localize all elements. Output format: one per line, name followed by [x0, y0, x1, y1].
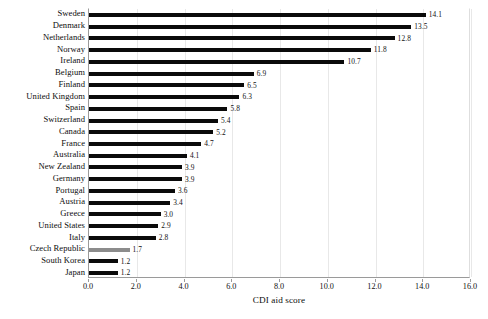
category-label: United Kingdom	[0, 92, 85, 101]
bar-row: 10.7	[89, 56, 469, 68]
bar-row: 1.2	[89, 255, 469, 267]
bar-value-label: 4.1	[190, 152, 200, 159]
bar-value-label: 10.7	[347, 58, 360, 65]
category-label: Ireland	[0, 56, 85, 65]
bar	[89, 142, 201, 146]
category-label: Austria	[0, 197, 85, 206]
bar-value-label: 4.7	[204, 140, 214, 147]
bar-value-label: 14.1	[429, 11, 442, 18]
bar-value-label: 12.8	[398, 35, 411, 42]
bar-value-label: 1.2	[121, 269, 131, 276]
bar-value-label: 3.6	[178, 187, 188, 194]
bar-value-label: 6.3	[242, 93, 252, 100]
bar-value-label: 6.5	[247, 82, 257, 89]
category-label: Sweden	[0, 9, 85, 18]
bar-row: 6.5	[89, 79, 469, 91]
category-label: Belgium	[0, 68, 85, 77]
x-tick-label: 10.0	[320, 283, 334, 291]
bar-rows: 14.113.512.811.810.76.96.56.35.85.45.24.…	[89, 9, 469, 277]
bar	[89, 165, 182, 169]
bar-row: 6.9	[89, 68, 469, 80]
bar-row: 12.8	[89, 32, 469, 44]
bar	[89, 95, 239, 99]
bar-value-label: 2.8	[159, 234, 169, 241]
bar	[89, 13, 426, 17]
bar	[89, 72, 254, 76]
bar	[89, 189, 175, 193]
x-tick-label: 4.0	[178, 283, 188, 291]
bar	[89, 130, 213, 134]
bar-value-label: 1.2	[121, 258, 131, 265]
category-label: Portugal	[0, 186, 85, 195]
category-label: Australia	[0, 150, 85, 159]
category-label: New Zealand	[0, 162, 85, 171]
bar	[89, 119, 218, 123]
bar-row: 3.9	[89, 173, 469, 185]
category-label: France	[0, 139, 85, 148]
x-axis-title: CDI aid score	[88, 296, 470, 305]
cdi-aid-score-bar-chart: SwedenDenmarkNetherlandsNorwayIrelandBel…	[0, 0, 488, 319]
bar	[89, 248, 130, 252]
bar-value-label: 3.9	[185, 176, 195, 183]
bar	[89, 212, 161, 216]
category-label: Greece	[0, 209, 85, 218]
bar-row: 1.7	[89, 244, 469, 256]
value-axis-ticks: 0.02.04.06.08.010.012.014.016.0	[0, 279, 488, 295]
category-label: Germany	[0, 174, 85, 183]
bar-value-label: 13.5	[414, 23, 427, 30]
bar-row: 3.6	[89, 185, 469, 197]
bar-row: 3.0	[89, 208, 469, 220]
bar-value-label: 11.8	[374, 46, 387, 53]
category-label: United States	[0, 221, 85, 230]
bar-row: 11.8	[89, 44, 469, 56]
bar-row: 2.9	[89, 220, 469, 232]
x-tick-label: 8.0	[274, 283, 284, 291]
bar	[89, 177, 182, 181]
category-label: Italy	[0, 233, 85, 242]
category-label: Czech Republic	[0, 244, 85, 253]
bar-value-label: 5.8	[230, 105, 240, 112]
x-tick-label: 2.0	[131, 283, 141, 291]
category-label: Canada	[0, 127, 85, 136]
bar-value-label: 3.4	[173, 199, 183, 206]
bar-value-label: 6.9	[257, 70, 267, 77]
category-label: South Korea	[0, 256, 85, 265]
bar	[89, 36, 395, 40]
bar	[89, 224, 158, 228]
bar	[89, 201, 170, 205]
category-axis-labels: SwedenDenmarkNetherlandsNorwayIrelandBel…	[0, 8, 85, 278]
bar-row: 4.1	[89, 150, 469, 162]
category-label: Finland	[0, 80, 85, 89]
gridline	[471, 9, 472, 277]
bar-row: 5.4	[89, 114, 469, 126]
category-label: Norway	[0, 45, 85, 54]
bar-row: 5.2	[89, 126, 469, 138]
category-label: Switzerland	[0, 115, 85, 124]
bar-row: 13.5	[89, 21, 469, 33]
x-tick-label: 14.0	[415, 283, 429, 291]
bar	[89, 154, 187, 158]
bar	[89, 60, 344, 64]
bar-value-label: 1.7	[133, 246, 143, 253]
bar-row: 5.8	[89, 103, 469, 115]
bar	[89, 271, 118, 275]
x-tick-label: 0.0	[83, 283, 93, 291]
bar-row: 3.4	[89, 197, 469, 209]
x-tick-label: 16.0	[463, 283, 477, 291]
bar-row: 3.9	[89, 161, 469, 173]
category-label: Netherlands	[0, 33, 85, 42]
bar-value-label: 2.9	[161, 222, 171, 229]
category-label: Denmark	[0, 21, 85, 30]
bar	[89, 48, 371, 52]
bar-value-label: 5.4	[221, 117, 231, 124]
bar	[89, 107, 227, 111]
bar-value-label: 3.0	[164, 211, 174, 218]
bar-row: 1.2	[89, 267, 469, 279]
bar	[89, 83, 244, 87]
x-tick-label: 12.0	[367, 283, 381, 291]
bar-value-label: 3.9	[185, 164, 195, 171]
bar	[89, 259, 118, 263]
bar-row: 6.3	[89, 91, 469, 103]
bar-row: 2.8	[89, 232, 469, 244]
plot-area: 14.113.512.811.810.76.96.56.35.85.45.24.…	[88, 8, 470, 278]
